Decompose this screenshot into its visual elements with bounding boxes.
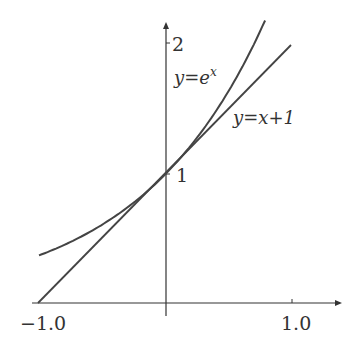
- line-label: y=x+1: [232, 107, 295, 128]
- y-tick-label-2: 2: [172, 33, 184, 55]
- series-exp: [39, 21, 265, 256]
- x-axis-arrow-icon: [335, 300, 342, 306]
- x-tick-label-neg: −1.0: [20, 312, 66, 334]
- y-tick-label-1: 1: [176, 164, 188, 186]
- x-tick-label-pos: 1.0: [281, 312, 311, 334]
- plot: −1.0 1.0 2 1 y=ex y=x+1: [0, 0, 355, 348]
- exp-label: y=ex: [173, 65, 217, 88]
- y-axis-arrow-icon: [163, 22, 169, 29]
